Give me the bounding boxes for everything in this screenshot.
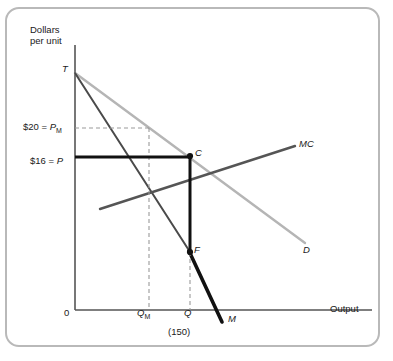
x-tick-label-q: Q <box>184 307 191 318</box>
curve-label-mc: MC <box>299 138 314 149</box>
quantity-q-value-annotation: (150) <box>168 326 190 337</box>
diagram-canvas: Dollars per unit T $20 = PM $16 = P C F … <box>0 0 393 361</box>
price-label-pm: $20 = PM <box>23 121 62 135</box>
curve-label-m: M <box>228 313 236 324</box>
origin-label: 0 <box>64 307 69 318</box>
x-tick-label-qm: QM <box>137 307 150 321</box>
price-pm-subscript: M <box>56 127 62 134</box>
marginal-revenue-curve-lower <box>189 251 222 322</box>
marginal-revenue-curve-upper <box>75 73 190 252</box>
y-axis-title: Dollars per unit <box>30 24 62 46</box>
point-label-c: C <box>195 147 202 158</box>
y-axis-title-line2: per unit <box>30 35 62 46</box>
point-label-t: T <box>62 63 68 74</box>
qm-subscript: M <box>144 313 150 320</box>
y-axis-title-line1: Dollars <box>30 24 60 35</box>
x-axis-title: Output <box>330 303 359 314</box>
price-p-symbol: P <box>57 155 63 166</box>
point-label-f: F <box>194 244 200 255</box>
price-p-prefix: $16 = <box>30 155 57 166</box>
price-pm-prefix: $20 = <box>23 121 50 132</box>
point-f-marker <box>187 249 193 255</box>
point-c-marker <box>187 153 193 159</box>
curve-label-d: D <box>303 244 310 255</box>
price-label-p: $16 = P <box>30 155 63 166</box>
